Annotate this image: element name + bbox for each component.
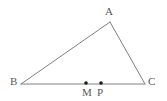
edge-ab-line — [21, 22, 110, 84]
point-label-p: P — [97, 87, 103, 98]
point-label-m: M — [82, 87, 92, 98]
point-m-dot — [84, 81, 88, 85]
vertex-label-b: B — [10, 76, 17, 87]
point-p-dot — [99, 81, 103, 85]
geometry-figure: A B C M P — [0, 0, 167, 101]
edge-ac-line — [110, 22, 145, 84]
vertex-label-a: A — [105, 6, 113, 17]
vertex-label-c: C — [148, 76, 155, 87]
triangle-edges — [21, 22, 145, 84]
